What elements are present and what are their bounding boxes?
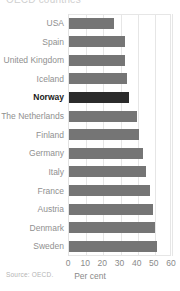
bar-row xyxy=(69,107,171,126)
bar-austria xyxy=(69,204,153,215)
bar-row xyxy=(69,88,171,107)
bar-row xyxy=(69,163,171,182)
x-tick-label-50: 50 xyxy=(149,258,158,268)
bar-row xyxy=(69,200,171,219)
category-label-united-kingdom: United Kingdom xyxy=(4,51,64,70)
bar-iceland xyxy=(69,73,127,84)
category-label-finland: Finland xyxy=(36,126,64,145)
category-label-norway: Norway xyxy=(33,88,64,107)
x-tick-label-20: 20 xyxy=(98,258,107,268)
bar-france xyxy=(69,185,150,196)
x-tick-label-30: 30 xyxy=(115,258,124,268)
bar-norway xyxy=(69,92,129,103)
bar-sweden xyxy=(69,241,157,252)
bar-row xyxy=(69,144,171,163)
category-label-usa: USA xyxy=(47,14,64,33)
category-label-austria: Austria xyxy=(38,200,64,219)
x-tick-label-10: 10 xyxy=(80,258,89,268)
bar-spain xyxy=(69,36,125,47)
plot-area xyxy=(68,14,171,256)
bar-row xyxy=(69,237,171,256)
category-axis-labels: USASpainUnited KingdomIcelandNorwayThe N… xyxy=(0,14,64,256)
chart-title-cropped: OECD countries xyxy=(6,0,176,6)
bar-rows xyxy=(69,14,171,256)
category-label-italy: Italy xyxy=(48,163,64,182)
bar-united-kingdom xyxy=(69,55,125,66)
bar-italy xyxy=(69,166,146,177)
x-tick-label-0: 0 xyxy=(66,258,71,268)
bar-usa xyxy=(69,18,114,29)
bar-row xyxy=(69,219,171,238)
gridline-60 xyxy=(172,14,173,256)
category-label-the-netherlands: The Netherlands xyxy=(1,107,64,126)
bar-the-netherlands xyxy=(69,111,137,122)
bar-row xyxy=(69,126,171,145)
bar-row xyxy=(69,70,171,89)
bar-row xyxy=(69,51,171,70)
bar-row xyxy=(69,33,171,52)
category-label-germany: Germany xyxy=(29,144,64,163)
category-label-denmark: Denmark xyxy=(30,219,64,238)
source-note: Source: OECD. xyxy=(6,271,53,278)
bar-denmark xyxy=(69,222,155,233)
bar-row xyxy=(69,182,171,201)
category-label-france: France xyxy=(38,182,64,201)
chart-figure: OECD countries USASpainUnited KingdomIce… xyxy=(0,0,180,291)
category-label-spain: Spain xyxy=(42,33,64,52)
category-label-iceland: Iceland xyxy=(37,70,64,89)
bar-germany xyxy=(69,148,143,159)
category-label-sweden: Sweden xyxy=(33,237,64,256)
x-tick-label-60: 60 xyxy=(166,258,175,268)
bar-row xyxy=(69,14,171,33)
bar-finland xyxy=(69,129,139,140)
x-axis-ticks: 0102030405060 xyxy=(0,258,180,270)
x-tick-label-40: 40 xyxy=(132,258,141,268)
